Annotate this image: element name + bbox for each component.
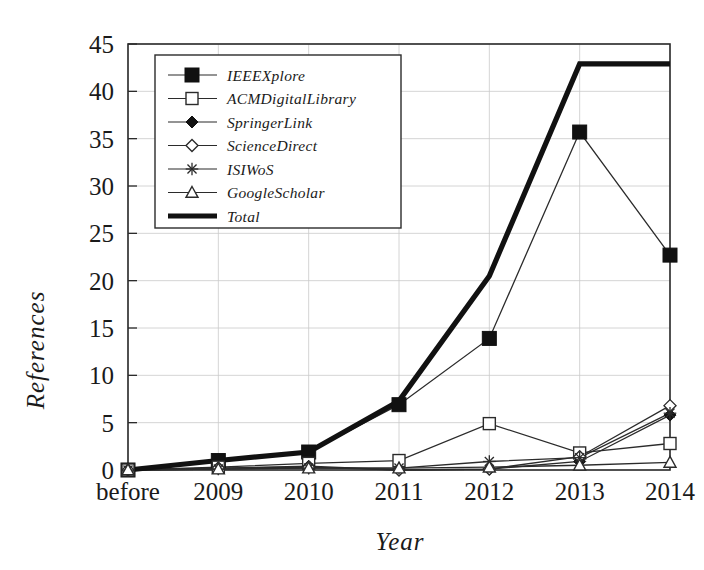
- data-point-marker: [573, 125, 587, 139]
- reference-growth-line-chart: 051015202530354045 before200920102011201…: [0, 0, 704, 570]
- y-tick-label: 20: [89, 268, 114, 295]
- y-tick-label: 45: [89, 31, 114, 58]
- data-point-marker: [483, 418, 495, 430]
- legend-label: GoogleScholar: [227, 184, 325, 201]
- y-tick-label: 5: [102, 410, 115, 437]
- x-tick-label: 2013: [555, 478, 605, 505]
- x-tick-label: before: [96, 478, 160, 505]
- legend-label: ScienceDirect: [227, 137, 318, 154]
- x-tick-label: 2009: [193, 478, 243, 505]
- y-tick-label: 25: [89, 220, 114, 247]
- y-tick-label: 40: [89, 78, 114, 105]
- legend-item-ieeexplore[interactable]: IEEEXplore: [168, 67, 305, 84]
- legend-label: ISIWoS: [226, 161, 274, 178]
- y-axis-title: References: [22, 291, 49, 411]
- x-tick-label: 2010: [284, 478, 334, 505]
- x-tick-label: 2012: [464, 478, 514, 505]
- legend-label: IEEEXplore: [226, 67, 305, 84]
- data-point-marker: [482, 331, 496, 345]
- y-tick-label: 35: [89, 126, 114, 153]
- legend-label: ACMDigitalLibrary: [226, 90, 356, 107]
- data-point-marker: [186, 93, 198, 105]
- x-axis-title: Year: [376, 528, 425, 555]
- legend[interactable]: IEEEXploreACMDigitalLibrarySpringerLinkS…: [155, 55, 401, 228]
- legend-label: SpringerLink: [227, 114, 313, 131]
- data-point-marker: [185, 68, 199, 82]
- legend-label: Total: [227, 208, 260, 225]
- data-point-marker: [663, 248, 677, 262]
- chart-svg: 051015202530354045 before200920102011201…: [0, 0, 704, 570]
- x-tick-label: 2014: [645, 478, 696, 505]
- legend-item-acmdigitallibrary[interactable]: ACMDigitalLibrary: [168, 90, 356, 107]
- y-tick-label: 30: [89, 173, 114, 200]
- y-tick-label: 15: [89, 315, 114, 342]
- y-tick-label: 10: [89, 362, 114, 389]
- data-point-marker: [664, 437, 676, 449]
- x-tick-label: 2011: [374, 478, 423, 505]
- data-point-marker: [392, 398, 406, 412]
